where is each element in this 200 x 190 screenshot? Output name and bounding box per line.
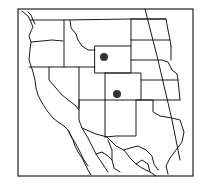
occurrence-marker-1 — [100, 53, 108, 61]
mexico-boundaries — [68, 128, 158, 176]
range-map — [0, 0, 200, 190]
coastline — [22, 11, 91, 175]
occurrence-marker-2 — [113, 90, 121, 98]
state-boundaries — [29, 9, 184, 174]
